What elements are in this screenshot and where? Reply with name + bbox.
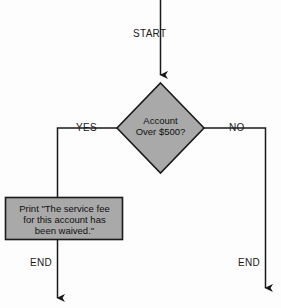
connector-yes-branch <box>58 128 118 197</box>
flowchart-canvas: Account Over $500? Print "The service fe… <box>0 0 281 308</box>
process-box-shape <box>6 198 123 240</box>
end-label-no-branch: END <box>238 257 260 268</box>
decision-diamond-shape <box>117 83 204 173</box>
edge-label-yes: YES <box>76 122 97 133</box>
start-label: START <box>133 28 166 39</box>
end-label-yes-branch: END <box>30 257 52 268</box>
edge-label-no: NO <box>229 122 245 133</box>
